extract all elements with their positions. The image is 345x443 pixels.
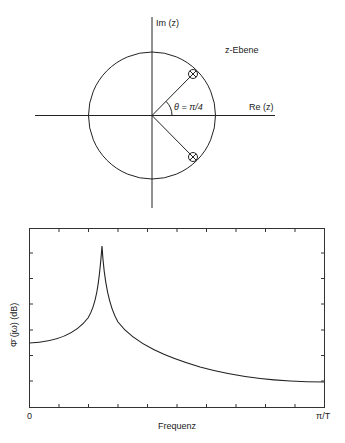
spectrum-curve bbox=[30, 246, 325, 382]
angle-arc bbox=[166, 101, 172, 115]
y-ticks bbox=[30, 253, 325, 381]
spectrum-plot bbox=[30, 229, 325, 408]
pole-marker-upper-icon bbox=[189, 70, 198, 79]
re-axis-label: Re (z) bbox=[249, 102, 274, 112]
z-plane-label: z-Ebene bbox=[225, 45, 259, 55]
figure-canvas bbox=[0, 0, 345, 443]
im-axis-label: Im (z) bbox=[156, 18, 179, 28]
y-axis-label: Φ̄ (jω) (dB) bbox=[9, 303, 19, 347]
x-tick-label-0: 0 bbox=[27, 411, 32, 421]
x-ticks bbox=[59, 229, 295, 408]
pole-marker-lower-icon bbox=[189, 153, 198, 162]
x-tick-label-pi-over-t: π/T bbox=[316, 411, 330, 421]
x-axis-label: Frequenz bbox=[158, 421, 196, 431]
angle-label: θ = π/4 bbox=[174, 102, 203, 112]
pole-ray-lower bbox=[152, 116, 193, 158]
